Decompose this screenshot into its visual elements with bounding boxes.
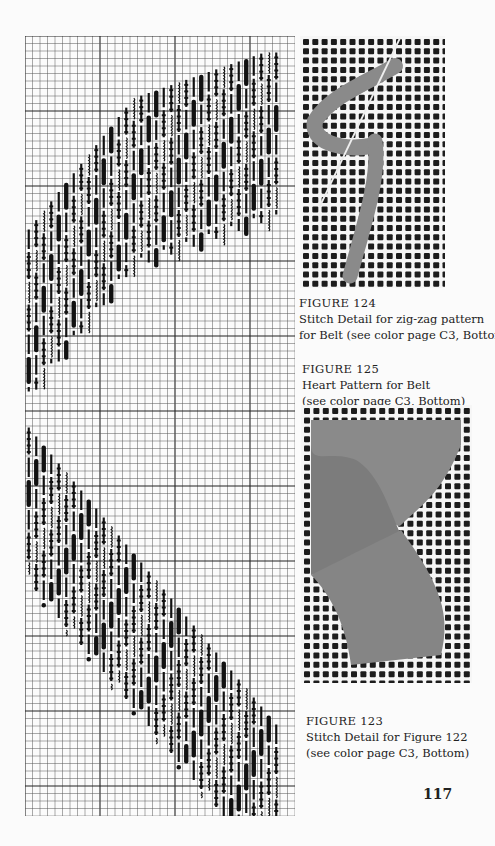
page-number: 117 <box>423 786 452 802</box>
figure-label: FIGURE 124 <box>299 295 495 311</box>
heart-pattern-photo <box>301 405 472 683</box>
zigzag-stitch-chart <box>25 36 295 816</box>
caption-line: for Belt (see color page C3, Bottom) <box>299 327 495 343</box>
caption-line: Stitch Detail for Figure 122 <box>306 729 469 745</box>
figure-125-caption: FIGURE 125 Heart Pattern for Belt (see c… <box>302 361 465 409</box>
stitch-detail-photo <box>300 36 445 288</box>
caption-line: Heart Pattern for Belt <box>302 377 465 393</box>
figure-label: FIGURE 125 <box>302 361 465 377</box>
figure-123-caption: FIGURE 123 Stitch Detail for Figure 122 … <box>306 713 469 761</box>
caption-line: Stitch Detail for zig-zag pattern <box>299 311 495 327</box>
caption-line: (see color page C3, Bottom) <box>306 745 469 761</box>
figure-label: FIGURE 123 <box>306 713 469 729</box>
figure-124-caption: FIGURE 124 Stitch Detail for zig-zag pat… <box>299 295 495 343</box>
